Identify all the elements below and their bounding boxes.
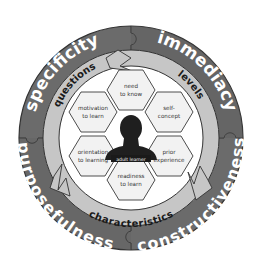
adult-learner-diagram: specificity immediacy purposefulness con…	[0, 0, 263, 273]
svg-text:motivation: motivation	[78, 105, 109, 111]
svg-text:readiness: readiness	[118, 173, 145, 179]
svg-text:experience: experience	[153, 157, 185, 164]
svg-text:to learn: to learn	[120, 181, 142, 187]
center-label: adult learner	[116, 157, 146, 162]
svg-text:self-: self-	[163, 105, 175, 111]
svg-text:to know: to know	[120, 91, 143, 97]
svg-text:need: need	[124, 83, 138, 89]
svg-text:concept: concept	[158, 113, 181, 120]
svg-text:prior: prior	[162, 149, 176, 156]
svg-text:orientation: orientation	[78, 149, 109, 155]
svg-text:to learning: to learning	[78, 157, 109, 164]
svg-text:to learn: to learn	[82, 113, 104, 119]
